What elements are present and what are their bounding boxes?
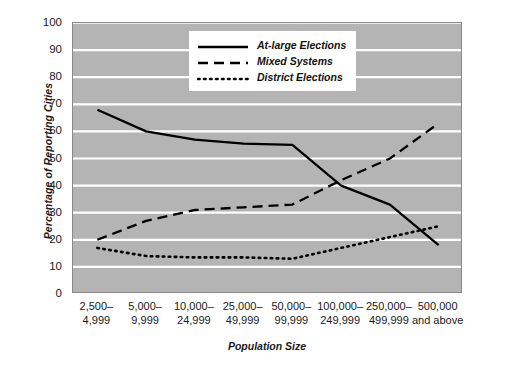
- legend-item: Mixed Systems: [197, 53, 346, 69]
- series-line: [97, 123, 438, 240]
- chart-legend: At-large ElectionsMixed SystemsDistrict …: [189, 31, 356, 91]
- x-tick-label-line: 49,999: [223, 314, 263, 328]
- y-tick-label: 50: [49, 152, 62, 164]
- y-tick-label: 80: [49, 70, 62, 82]
- chart-figure: Percentage of Reporting Cities 010203040…: [0, 0, 506, 377]
- x-tick-label: 10,000–24,999: [174, 300, 214, 327]
- x-tick-label-line: 499,999: [366, 314, 412, 328]
- x-tick-label-line: 9,999: [128, 314, 162, 328]
- x-tick-label-line: 24,999: [174, 314, 214, 328]
- x-axis-tick-labels: 2,500–4,9995,000–9,99910,000–24,99925,00…: [72, 300, 462, 336]
- legend-item: At-large Elections: [197, 37, 346, 53]
- legend-key-dashed: [197, 55, 249, 67]
- y-tick-label: 30: [49, 206, 62, 218]
- series-line: [97, 226, 438, 259]
- x-tick-label-line: 50,000–: [271, 300, 311, 314]
- x-axis-title: Population Size: [72, 340, 462, 352]
- y-tick-label: 40: [49, 179, 62, 191]
- legend-label: Mixed Systems: [257, 55, 333, 67]
- x-tick-label: 50,000–99,999: [271, 300, 311, 327]
- y-tick-label: 0: [56, 287, 62, 299]
- x-tick-label: 2,500–4,999: [80, 300, 114, 327]
- y-tick-label: 10: [49, 260, 62, 272]
- legend-key-solid: [197, 39, 249, 51]
- y-tick-label: 20: [49, 233, 62, 245]
- x-tick-label-line: 10,000–: [174, 300, 214, 314]
- x-tick-label-line: 25,000–: [223, 300, 263, 314]
- x-tick-label-line: 5,000–: [128, 300, 162, 314]
- x-tick-label-line: 500,000: [412, 300, 463, 314]
- y-tick-label: 90: [49, 43, 62, 55]
- x-tick-label-line: 250,000–: [366, 300, 412, 314]
- legend-label: District Elections: [257, 71, 343, 83]
- x-tick-label-line: 4,999: [80, 314, 114, 328]
- x-tick-label: 100,000–249,999: [317, 300, 363, 327]
- x-tick-label: 250,000–499,999: [366, 300, 412, 327]
- x-tick-label-line: and above: [412, 314, 463, 328]
- x-tick-label: 500,000and above: [412, 300, 463, 327]
- y-tick-label: 60: [49, 124, 62, 136]
- x-tick-label: 5,000–9,999: [128, 300, 162, 327]
- y-axis-tick-labels: 0102030405060708090100: [22, 22, 66, 293]
- legend-item: District Elections: [197, 69, 346, 85]
- legend-key-dotted: [197, 71, 249, 83]
- legend-label: At-large Elections: [257, 39, 346, 51]
- x-tick-label-line: 249,999: [317, 314, 363, 328]
- y-tick-label: 100: [43, 16, 62, 28]
- y-tick-label: 70: [49, 97, 62, 109]
- x-tick-label-line: 99,999: [271, 314, 311, 328]
- x-tick-label: 25,000–49,999: [223, 300, 263, 327]
- x-tick-label-line: 2,500–: [80, 300, 114, 314]
- x-tick-label-line: 100,000–: [317, 300, 363, 314]
- series-line: [97, 110, 438, 246]
